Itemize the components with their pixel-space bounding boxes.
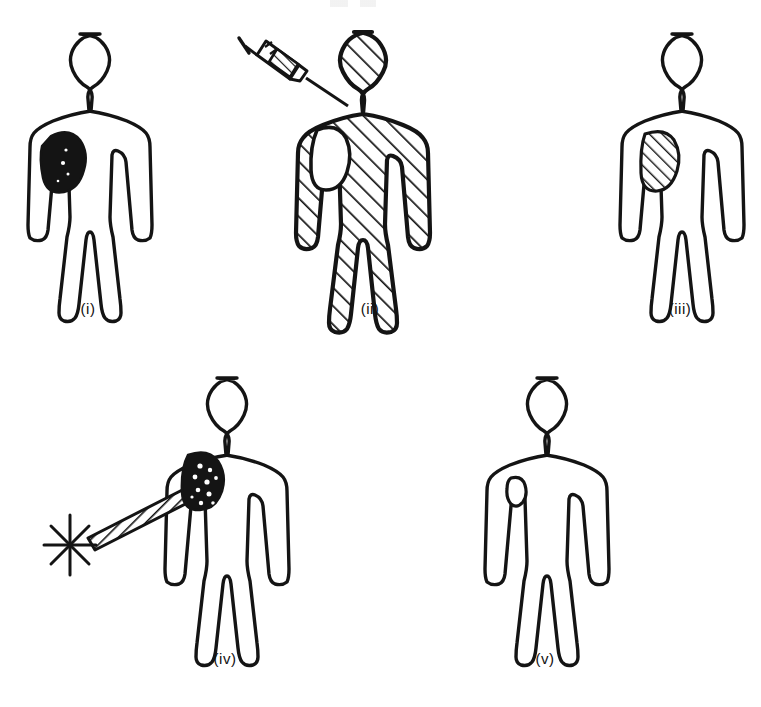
- panel-i: (i): [8, 22, 168, 322]
- panel-ii: (ii): [250, 22, 470, 322]
- panel-iii-figure: [600, 22, 760, 322]
- body-outline-iv: [165, 378, 289, 666]
- radiation-burst-icon: [44, 515, 96, 575]
- body-outline-v: [485, 378, 609, 666]
- tumour-stippled-blob-iv: [182, 453, 224, 511]
- panel-v-figure: [455, 370, 635, 680]
- panel-iii-caption: (iii): [600, 300, 760, 317]
- panel-iv: (iv): [30, 370, 360, 680]
- panel-i-caption: (i): [8, 300, 168, 317]
- tumour-small-outline-v: [507, 477, 526, 506]
- panel-v: (v): [455, 370, 635, 680]
- scan-artifact: [330, 0, 400, 7]
- tumour-hatched-oval-iii: [641, 132, 679, 192]
- panel-ii-caption: (ii): [260, 300, 480, 317]
- figure-canvas: (i): [0, 0, 761, 707]
- body-outline-iii: [620, 34, 744, 322]
- panel-iii: (iii): [600, 22, 760, 322]
- panel-iv-figure: [30, 370, 360, 680]
- tumour-unfilled-oval-ii: [311, 127, 350, 190]
- panel-v-caption: (v): [455, 650, 635, 667]
- panel-i-figure: [8, 22, 168, 322]
- panel-iv-caption: (iv): [60, 650, 390, 667]
- panel-ii-figure: [250, 22, 470, 322]
- syringe-icon: [239, 38, 348, 106]
